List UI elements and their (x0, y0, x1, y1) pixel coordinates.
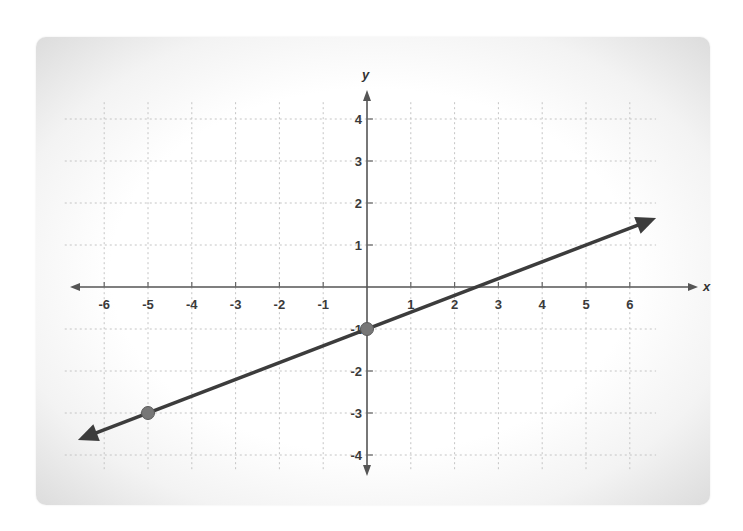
x-tick-label: -2 (274, 297, 286, 312)
y-tick-label: -3 (350, 406, 362, 421)
y-axis-up-arrow-icon (363, 90, 371, 101)
x-tick-label: 5 (582, 297, 589, 312)
x-tick-label: -1 (317, 297, 329, 312)
y-tick-label: 1 (355, 238, 362, 253)
y-tick-label: -2 (350, 364, 362, 379)
y-tick-label: 4 (355, 112, 363, 127)
y-axis-down-arrow-icon (363, 465, 371, 476)
data-point (142, 407, 155, 420)
y-tick-label: 2 (355, 196, 362, 211)
x-axis-right-arrow-icon (688, 283, 698, 291)
x-tick-label: -3 (230, 297, 242, 312)
y-axis-label: y (361, 67, 370, 82)
x-tick-label: -5 (142, 297, 154, 312)
data-point (361, 323, 374, 336)
y-tick-label: -4 (350, 448, 362, 463)
x-tick-label: -6 (98, 297, 110, 312)
x-axis-label: x (702, 279, 711, 294)
x-tick-label: 3 (495, 297, 502, 312)
x-tick-label: -4 (186, 297, 198, 312)
x-axis-left-arrow-icon (70, 283, 80, 291)
y-tick-label: 3 (355, 154, 362, 169)
coordinate-plane: -6-5-4-3-2-11234564321-1-2-3-4 x y (0, 0, 743, 531)
x-tick-label: 4 (539, 297, 547, 312)
x-tick-label: 6 (626, 297, 633, 312)
axes (70, 90, 698, 476)
line-arrow-right-icon (634, 217, 656, 234)
line-arrow-left-icon (78, 424, 100, 441)
x-tick-label: 2 (451, 297, 458, 312)
